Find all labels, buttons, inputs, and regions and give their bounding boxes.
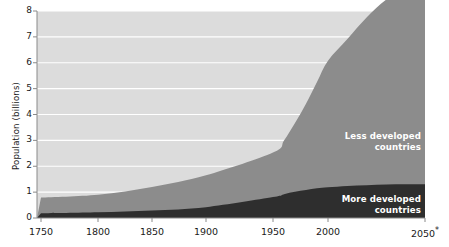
x-tick-label: 1750 <box>29 226 53 237</box>
x-tick-label: 1950 <box>261 226 285 237</box>
y-tick-label: 7 <box>18 31 32 41</box>
y-tick-label: 8 <box>18 5 32 15</box>
x-tick-label: 1800 <box>86 226 110 237</box>
y-tick-label: 5 <box>18 83 32 93</box>
less-developed-line1: Less developed <box>345 131 421 142</box>
less-developed-countries-label: Less developed countries <box>345 131 421 152</box>
x-tick-label: 2000 <box>316 226 340 237</box>
y-tick-label: 2 <box>18 160 32 170</box>
y-tick-label: 6 <box>18 57 32 67</box>
less-developed-line2: countries <box>345 142 421 153</box>
more-developed-line1: More developed <box>342 194 421 205</box>
more-developed-line2: countries <box>342 205 421 216</box>
projection-asterisk: * <box>435 226 439 235</box>
x-tick-label: 2050* <box>411 226 439 239</box>
more-developed-countries-label: More developed countries <box>342 194 421 215</box>
y-axis-title: Population (billions) <box>11 82 21 170</box>
population-area-chart: Population (billions) 012345678 17501800… <box>0 0 449 247</box>
x-tick-label: 1850 <box>140 226 164 237</box>
x-tick-label: 1900 <box>194 226 218 237</box>
y-tick-label: 3 <box>18 134 32 144</box>
y-tick-label: 0 <box>18 212 32 222</box>
y-tick-label: 4 <box>18 109 32 119</box>
y-tick-label: 1 <box>18 186 32 196</box>
